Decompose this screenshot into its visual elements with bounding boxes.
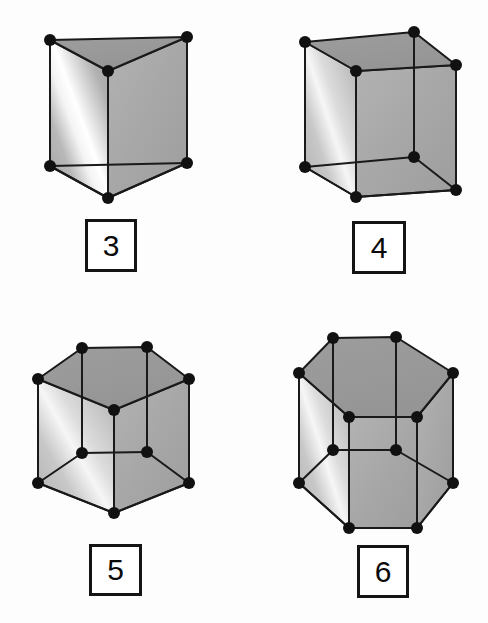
hexagonal-prism-vertex-top-1	[390, 331, 402, 343]
hexagonal-prism-vertex-top-3	[411, 411, 423, 423]
rectangular-prism-vertex-bottom-1	[408, 151, 420, 163]
label-text-5: 5	[107, 555, 124, 585]
pentagonal-prism-vertex-top-3	[108, 404, 120, 416]
hexagonal-prism-vertex-bottom-3	[411, 522, 423, 534]
pentagonal-prism-vertex-bottom-4	[32, 477, 44, 489]
triangular-prism-vertex-top-2	[102, 65, 114, 77]
triangular-prism	[44, 31, 193, 204]
hexagonal-prism-vertex-bottom-0	[327, 444, 339, 456]
pentagonal-prism-vertex-bottom-3	[108, 507, 120, 519]
hexagonal-prism-vertex-bottom-4	[343, 522, 355, 534]
label-box-6: 6	[357, 545, 409, 598]
label-box-5: 5	[89, 544, 142, 596]
pentagonal-prism-vertex-top-0	[76, 342, 88, 354]
pentagonal-prism-vertex-top-4	[32, 373, 44, 385]
prism-figure: 3 4 5 6	[0, 0, 488, 623]
prism-illustration-canvas	[0, 0, 488, 623]
pentagonal-prism-vertex-top-2	[183, 373, 195, 385]
rectangular-prism-vertex-top-1	[408, 26, 420, 38]
hexagonal-prism-vertex-top-5	[293, 367, 305, 379]
hexagonal-prism-vertex-top-0	[327, 332, 339, 344]
pentagonal-prism-vertex-bottom-0	[76, 447, 88, 459]
rectangular-prism-vertex-top-3	[350, 65, 362, 77]
triangular-prism-vertex-bottom-0	[44, 160, 56, 172]
rectangular-prism	[299, 26, 462, 203]
label-box-3: 3	[85, 219, 137, 272]
hexagonal-prism-vertex-top-4	[343, 411, 355, 423]
triangular-prism-vertex-top-1	[181, 31, 193, 43]
rectangular-prism-vertex-bottom-0	[299, 161, 311, 173]
label-box-4: 4	[352, 221, 406, 274]
label-text-6: 6	[375, 557, 392, 587]
rectangular-prism-vertex-top-2	[450, 59, 462, 71]
hexagonal-prism-side-face	[349, 417, 417, 528]
pentagonal-prism-vertex-top-1	[141, 341, 153, 353]
hexagonal-prism-vertex-bottom-1	[390, 444, 402, 456]
triangular-prism-vertex-bottom-2	[102, 192, 114, 204]
pentagonal-prism-vertex-bottom-1	[141, 446, 153, 458]
hexagonal-prism-vertex-bottom-2	[447, 477, 459, 489]
hexagonal-prism-vertex-bottom-5	[293, 477, 305, 489]
hexagonal-prism-vertex-top-2	[447, 367, 459, 379]
pentagonal-prism	[32, 341, 195, 519]
triangular-prism-vertex-top-0	[44, 34, 56, 46]
pentagonal-prism-vertex-bottom-2	[183, 477, 195, 489]
rectangular-prism-vertex-top-0	[299, 36, 311, 48]
label-text-3: 3	[103, 231, 120, 261]
hexagonal-prism	[293, 331, 459, 534]
rectangular-prism-vertex-bottom-2	[450, 184, 462, 196]
label-text-4: 4	[371, 233, 388, 263]
rectangular-prism-vertex-bottom-3	[350, 191, 362, 203]
triangular-prism-vertex-bottom-1	[181, 157, 193, 169]
